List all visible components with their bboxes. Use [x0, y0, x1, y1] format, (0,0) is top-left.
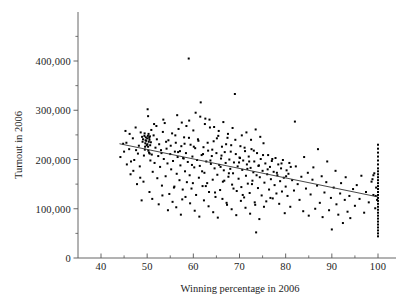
scatter-point: [232, 127, 234, 129]
scatter-point: [231, 208, 233, 210]
scatter-point: [175, 206, 177, 208]
scatter-point: [377, 163, 379, 165]
scatter-point: [207, 150, 209, 152]
scatter-point: [180, 145, 182, 147]
scatter-point: [178, 179, 180, 181]
scatter-point: [162, 119, 164, 121]
scatter-point: [189, 174, 191, 176]
scatter-point: [294, 121, 296, 123]
scatter-point: [222, 121, 224, 123]
scatter-point: [162, 131, 164, 133]
scatter-point: [166, 148, 168, 150]
scatter-point: [377, 167, 379, 169]
scatter-point: [202, 153, 204, 155]
scatter-point: [260, 158, 262, 160]
scatter-point: [217, 217, 219, 219]
scatter-point: [349, 217, 351, 219]
scatter-point: [293, 190, 295, 192]
scatter-point: [267, 168, 269, 170]
x-tick-label: 40: [96, 261, 107, 272]
scatter-point: [145, 139, 147, 141]
scatter-point: [132, 137, 134, 139]
scatter-point: [141, 136, 143, 138]
scatter-point: [244, 147, 246, 149]
scatter-point: [146, 137, 148, 139]
scatter-point: [192, 182, 194, 184]
scatter-point: [342, 222, 344, 224]
scatter-point: [377, 191, 379, 193]
scatter-point: [175, 142, 177, 144]
scatter-point: [235, 214, 237, 216]
scatter-point: [261, 194, 263, 196]
scatter-point: [377, 232, 379, 234]
scatter-point: [249, 192, 251, 194]
scatter-point: [290, 166, 292, 168]
scatter-point: [302, 210, 304, 212]
scatter-point: [165, 175, 167, 177]
scatter-point: [147, 108, 149, 110]
scatter-point: [220, 155, 222, 157]
scatter-point: [263, 142, 265, 144]
scatter-point: [167, 139, 169, 141]
scatter-point: [179, 150, 181, 152]
scatter-point: [377, 185, 379, 187]
scatter-point: [373, 172, 375, 174]
scatter-point: [269, 197, 271, 199]
scatter-point: [233, 161, 235, 163]
scatter-point: [238, 178, 240, 180]
scatter-point: [220, 166, 222, 168]
scatter-point: [208, 205, 210, 207]
scatter-point: [139, 177, 141, 179]
scatter-point: [326, 160, 328, 162]
scatter-point: [287, 195, 289, 197]
scatter-point: [158, 143, 160, 145]
scatter-point: [377, 235, 379, 237]
scatter-point: [257, 165, 259, 167]
scatter-point: [208, 191, 210, 193]
scatter-point: [250, 139, 252, 141]
scatter-point: [267, 154, 269, 156]
scatter-point: [166, 162, 168, 164]
scatter-point: [149, 144, 151, 146]
scatter-point: [213, 126, 215, 128]
scatter-point: [363, 212, 365, 214]
scatter-point: [345, 176, 347, 178]
scatter-point: [305, 188, 307, 190]
scatter-point: [377, 215, 379, 217]
scatter-point: [241, 134, 243, 136]
scatter-point: [198, 177, 200, 179]
scatter-point: [275, 157, 277, 159]
scatter-point: [181, 122, 183, 124]
scatter-point: [377, 229, 379, 231]
scatter-point: [245, 207, 247, 209]
scatter-point: [182, 189, 184, 191]
scatter-point: [130, 173, 132, 175]
scatter-point: [377, 221, 379, 223]
scatter-point: [161, 185, 163, 187]
scatter-point: [227, 133, 229, 135]
scatter-point: [193, 166, 195, 168]
scatter-point: [256, 174, 258, 176]
scatter-point: [174, 134, 176, 136]
scatter-point: [199, 116, 201, 118]
scatter-point: [148, 137, 150, 139]
scatter-point: [377, 144, 379, 146]
scatter-point: [188, 58, 190, 60]
scatter-point: [147, 135, 149, 137]
scatter-point: [148, 191, 150, 193]
scatter-point: [311, 179, 313, 181]
scatter-point: [374, 207, 376, 209]
scatter-point: [284, 212, 286, 214]
scatter-point: [139, 165, 141, 167]
scatter-point: [285, 186, 287, 188]
scatter-point: [319, 202, 321, 204]
scatter-point: [199, 165, 201, 167]
scatter-point: [156, 138, 158, 140]
scatter-point: [184, 143, 186, 145]
scatter-point: [216, 137, 218, 139]
scatter-point: [218, 130, 220, 132]
x-tick-label: 80: [280, 261, 291, 272]
scatter-point: [190, 188, 192, 190]
scatter-point: [221, 198, 223, 200]
scatter-point: [225, 162, 227, 164]
